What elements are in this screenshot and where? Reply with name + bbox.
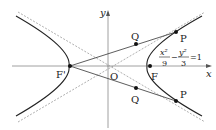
point-P-upper	[174, 30, 178, 34]
equation-equals-one: =1	[190, 53, 202, 62]
point-Q-lower	[134, 86, 138, 90]
equation-x-denominator: 9	[162, 59, 167, 68]
segment-Fprime-P-lower	[70, 66, 176, 101]
label-focus-right: F	[151, 71, 158, 82]
y-axis-label: y	[99, 7, 106, 18]
point-focus-right	[148, 64, 152, 68]
point-origin	[107, 65, 109, 67]
point-P-lower	[174, 99, 178, 103]
equation-y-denominator: 3	[181, 59, 186, 68]
label-P-upper: P	[180, 33, 187, 44]
equation: x² 9 − y² 3 =1	[159, 48, 202, 68]
x-axis-label: x	[206, 68, 212, 79]
equation-y-numerator: y²	[178, 48, 187, 57]
equation-x-numerator: x²	[160, 48, 168, 57]
label-P-lower: P	[180, 89, 187, 100]
equation-minus: −	[171, 53, 178, 62]
point-focus-left	[68, 64, 72, 68]
label-Q-upper: Q	[131, 31, 139, 42]
label-Q-lower: Q	[131, 94, 139, 105]
origin-label: O	[110, 71, 118, 82]
point-Q-upper	[134, 42, 138, 46]
label-focus-left: F'	[56, 69, 66, 80]
y-axis-arrow-icon	[106, 10, 110, 16]
hyperbola-diagram: y x O F' F P P Q Q x² 9 − y² 3 =1	[0, 0, 216, 130]
